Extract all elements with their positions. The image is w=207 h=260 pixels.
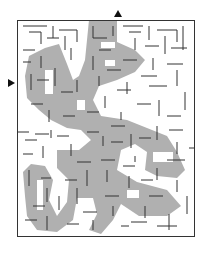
- maze-grid: [17, 20, 195, 237]
- left-entrance-arrow-icon: [8, 79, 15, 87]
- top-entrance-arrow-icon: [114, 10, 122, 17]
